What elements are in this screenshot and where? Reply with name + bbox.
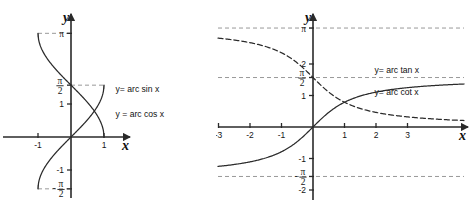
- svg-text:π: π: [58, 76, 63, 86]
- svg-text:-1: -1: [56, 165, 64, 175]
- right-guide-lines: [218, 28, 464, 176]
- right-series-labels: y= arc tan xy= arc cot x: [374, 65, 419, 97]
- svg-text:2: 2: [59, 189, 64, 199]
- left-x-axis-label: x: [121, 138, 129, 153]
- svg-text:2: 2: [300, 78, 305, 88]
- svg-text:1: 1: [342, 130, 347, 140]
- svg-text:-1: -1: [34, 140, 42, 150]
- right-label-arctan: y= arc tan x: [374, 65, 419, 75]
- svg-text:π: π: [301, 167, 306, 177]
- right-panel: xy-3-2-1123π2π21-1π2--2y= arc tan xy= ar…: [216, 0, 476, 209]
- right-tick-pi-over-2: π2: [298, 68, 305, 88]
- svg-text:-1: -1: [298, 154, 306, 164]
- figure-root: xy-11ππ21-1π2-y= arc sin xy = arc cos x …: [0, 0, 476, 209]
- svg-text:1: 1: [102, 140, 107, 150]
- svg-text:3: 3: [405, 130, 410, 140]
- svg-text:-1: -1: [278, 130, 286, 140]
- svg-text:-3: -3: [216, 130, 223, 140]
- svg-text:-: -: [52, 183, 55, 193]
- right-curve-arccot: [218, 38, 464, 120]
- left-y-ticks: ππ21-1π2-: [52, 29, 72, 200]
- left-series-labels: y= arc sin xy = arc cos x: [116, 84, 165, 118]
- svg-text:2: 2: [58, 86, 63, 96]
- svg-text:2: 2: [374, 130, 379, 140]
- left-tick-pi-over-2: π2: [56, 76, 63, 96]
- left-label-arccos: y = arc cos x: [116, 109, 165, 119]
- right-label-arccot: y= arc cot x: [374, 87, 419, 97]
- svg-text:-: -: [294, 171, 297, 181]
- svg-text:1: 1: [301, 91, 306, 101]
- left-panel: xy-11ππ21-1π2-y= arc sin xy = arc cos x: [0, 0, 238, 209]
- svg-text:π: π: [300, 68, 305, 78]
- left-y-axis-label: y: [61, 10, 70, 25]
- svg-text:-2: -2: [246, 130, 254, 140]
- right-y-ticks: π2π21-1π2--2: [294, 24, 314, 196]
- left-label-arcsin: y= arc sin x: [116, 84, 160, 94]
- right-x-axis-label: x: [458, 128, 466, 143]
- svg-text:π: π: [301, 24, 306, 34]
- svg-text:π: π: [59, 179, 64, 189]
- right-tick-neg-pi-over-2: π2-: [294, 167, 306, 187]
- svg-text:-2: -2: [298, 185, 306, 195]
- svg-text:1: 1: [59, 99, 64, 109]
- right-curve-arctan: [218, 84, 464, 166]
- svg-text:π: π: [59, 29, 64, 39]
- left-tick-neg-pi-over-2: π2-: [52, 179, 64, 199]
